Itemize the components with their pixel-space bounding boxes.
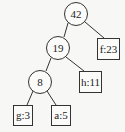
- edge-42-f23: [85, 22, 104, 38]
- edge-42-19: [64, 23, 68, 37]
- label-42: 42: [64, 9, 88, 20]
- label-8: 8: [28, 77, 52, 88]
- label-19: 19: [46, 43, 70, 54]
- label-f23: f:23: [97, 44, 120, 55]
- label-g3: g:3: [13, 110, 33, 121]
- edge-19-8: [46, 58, 51, 71]
- label-h11: h:11: [79, 77, 102, 88]
- label-a5: a:5: [51, 110, 71, 121]
- edge-19-h11: [66, 57, 84, 71]
- edge-8-a5: [47, 91, 56, 105]
- edge-8-g3: [27, 91, 33, 105]
